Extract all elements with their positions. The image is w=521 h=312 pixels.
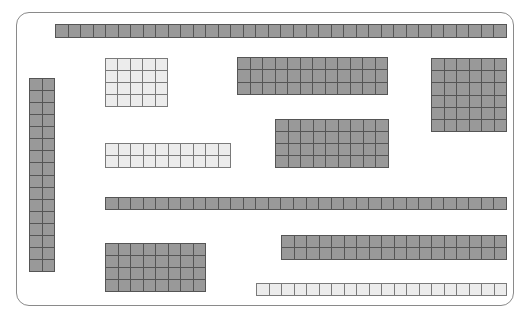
grid-cell [326,83,338,94]
grid-cell [482,120,494,131]
grid-cell [339,132,351,143]
grid-cell [30,103,42,114]
grid-cell [370,284,382,295]
grid-cell [119,144,131,155]
grid-cell [307,248,319,259]
grid-cell [357,25,369,37]
grid-cell [301,120,313,131]
grid-cell [181,198,193,209]
grid-cell [144,244,156,255]
grid-cell [382,248,394,259]
grid-cell [289,132,301,143]
grid-cell [119,198,131,209]
grid-cell [444,198,456,209]
grid-cell [43,224,55,235]
grid-cell [420,248,432,259]
grid-cell [43,91,55,102]
grid-cell [43,163,55,174]
grid-cell [419,25,431,37]
grid-cell [281,25,293,37]
grid-cell [338,83,350,94]
grid-cell [295,248,307,259]
grid-cell [376,83,388,94]
grid-cell [282,236,294,247]
grid-cell [482,284,494,295]
grid-cell [432,59,444,70]
grid-cell [457,236,469,247]
grid-cell [382,25,394,37]
grid-cell [276,70,288,81]
grid-cell [169,280,181,291]
grid-cell [206,156,218,167]
grid-cell [156,244,168,255]
dark-block-a-block [237,57,388,95]
grid-cell [470,236,482,247]
top-row-block [55,24,507,38]
grid-cell [470,96,482,107]
grid-cell [363,70,375,81]
grid-cell [131,198,143,209]
grid-cell [376,120,388,131]
grid-cell [494,25,506,37]
grid-cell [301,70,313,81]
grid-cell [470,120,482,131]
grid-cell [219,156,231,167]
grid-cell [106,59,117,70]
grid-cell [314,132,326,143]
grid-cell [30,224,42,235]
grid-cell [344,198,356,209]
grid-cell [432,198,444,209]
grid-cell [276,144,288,155]
grid-cell [382,198,394,209]
grid-cell [276,120,288,131]
grid-cell [118,95,129,106]
grid-cell [495,236,507,247]
grid-cell [332,248,344,259]
grid-cell [482,59,494,70]
grid-cell [131,280,143,291]
grid-cell [263,58,275,69]
grid-cell [144,268,156,279]
light-block-b-block [105,143,231,168]
grid-cell [276,156,288,167]
grid-cell [326,58,338,69]
grid-cell [156,268,168,279]
grid-cell [156,144,168,155]
grid-cell [482,25,494,37]
grid-cell [364,120,376,131]
grid-cell [344,25,356,37]
grid-cell [106,83,117,94]
grid-cell [444,25,456,37]
grid-cell [301,83,313,94]
grid-cell [131,95,142,106]
grid-cell [351,83,363,94]
grid-cell [326,70,338,81]
grid-cell [231,25,243,37]
grid-cell [119,156,131,167]
grid-cell [351,58,363,69]
grid-cell [238,83,250,94]
grid-cell [276,58,288,69]
grid-cell [143,59,154,70]
grid-cell [482,198,494,209]
grid-cell [369,198,381,209]
grid-cell [30,91,42,102]
grid-cell [181,280,193,291]
grid-cell [470,284,482,295]
left-column-block [29,78,55,272]
grid-cell [301,144,313,155]
grid-cell [432,108,444,119]
grid-cell [30,248,42,259]
grid-cell [194,256,206,267]
grid-cell [131,83,142,94]
grid-cell [181,256,193,267]
grid-cell [143,71,154,82]
grid-cell [244,25,256,37]
grid-cell [345,248,357,259]
grid-cell [118,83,129,94]
grid-cell [482,236,494,247]
grid-cell [376,156,388,167]
grid-cell [288,58,300,69]
grid-cell [326,120,338,131]
grid-cell [256,25,268,37]
